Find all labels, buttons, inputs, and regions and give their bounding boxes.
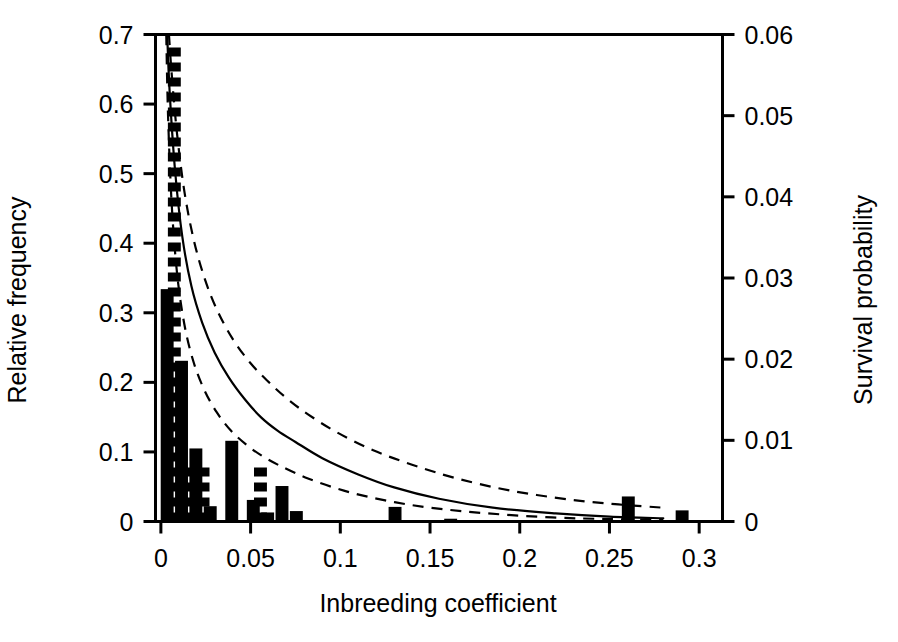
bar-hatched-segment <box>168 318 181 327</box>
bar-hatched-segment <box>168 438 181 447</box>
bar-solid <box>444 519 457 522</box>
x-axis-title: Inbreeding coefficient <box>319 589 556 617</box>
y2-axis-ticks <box>723 35 735 522</box>
bar-hatched-segment <box>168 333 181 342</box>
bar-hatched-segment <box>168 468 181 477</box>
bar-hatched-segment <box>168 303 181 312</box>
bar-hatched-segment <box>197 483 210 492</box>
plot-frame <box>156 35 723 522</box>
bar-hatched-segment <box>168 483 181 492</box>
bar-solid <box>676 510 689 521</box>
bar-hatched-segment <box>168 258 181 267</box>
solid-bar-series <box>161 289 689 521</box>
y2-axis-title: Survival probability <box>849 195 877 405</box>
x-tick-label: 0.1 <box>323 544 358 572</box>
bar-hatched-segment <box>168 453 181 462</box>
y-tick-label: 0.3 <box>99 299 134 327</box>
y2-tick-label: 0.02 <box>745 345 794 373</box>
bar-hatched-segment <box>168 273 181 282</box>
bar-hatched-segment <box>182 468 195 477</box>
y2-tick-label: 0.04 <box>745 183 794 211</box>
bar-hatched-segment <box>254 498 267 507</box>
bar-hatched-segment <box>254 513 267 522</box>
bar-hatched-segment <box>197 498 210 507</box>
bar-hatched-segment <box>168 513 181 522</box>
x-tick-label: 0.2 <box>502 544 537 572</box>
bar-solid <box>389 507 402 522</box>
y-tick-label: 0.5 <box>99 160 134 188</box>
survival-curve-group <box>166 35 663 520</box>
y2-tick-label: 0 <box>745 508 759 536</box>
bar-hatched-segment <box>197 468 210 477</box>
x-tick-label: 0.15 <box>406 544 455 572</box>
y-axis-tick-labels: 00.10.20.30.40.50.60.7 <box>99 21 134 536</box>
x-tick-label: 0.3 <box>682 544 717 572</box>
x-axis-tick-labels: 00.050.10.150.20.250.3 <box>154 544 717 572</box>
y-tick-label: 0 <box>120 508 134 536</box>
x-tick-label: 0 <box>154 544 168 572</box>
bar-hatched-segment <box>182 498 195 507</box>
bar-hatched-segment <box>168 393 181 402</box>
y2-tick-label: 0.06 <box>745 21 794 49</box>
bar-solid <box>290 511 303 521</box>
bar-hatched-segment <box>168 348 181 357</box>
bar-hatched-segment <box>168 423 181 432</box>
y-tick-label: 0.2 <box>99 368 134 396</box>
y2-tick-label: 0.03 <box>745 264 794 292</box>
bar-hatched-segment <box>168 498 181 507</box>
y-tick-label: 0.4 <box>99 229 134 257</box>
x-axis-ticks <box>161 522 699 534</box>
y2-tick-label: 0.01 <box>745 426 794 454</box>
bar-hatched-segment <box>254 468 267 477</box>
bar-hatched-segment <box>182 513 195 522</box>
bar-hatched-segment <box>182 483 195 492</box>
bar-hatched-segment <box>168 123 181 132</box>
y-tick-label: 0.6 <box>99 90 134 118</box>
y-axis-ticks <box>144 35 156 522</box>
inbreeding-survival-chart: 00.050.10.150.20.250.3 00.10.20.30.40.50… <box>0 0 898 642</box>
y-tick-label: 0.1 <box>99 438 134 466</box>
bar-solid <box>276 486 289 521</box>
x-tick-label: 0.05 <box>226 544 275 572</box>
y2-tick-label: 0.05 <box>745 102 794 130</box>
confidence-limit-curve <box>166 35 663 520</box>
survival-curve <box>167 35 663 519</box>
figure-root: 00.050.10.150.20.250.3 00.10.20.30.40.50… <box>0 0 898 642</box>
bar-hatched-segment <box>168 363 181 372</box>
bar-hatched-segment <box>254 483 267 492</box>
x-tick-label: 0.25 <box>585 544 634 572</box>
bar-hatched-segment <box>168 378 181 387</box>
bar-solid <box>225 441 238 522</box>
bar-hatched-segment <box>168 408 181 417</box>
confidence-limit-curve <box>169 35 663 508</box>
y2-axis-tick-labels: 00.010.020.030.040.050.06 <box>745 21 794 536</box>
bar-hatched-segment <box>197 513 210 522</box>
y-axis-title: Relative frequency <box>3 196 31 404</box>
axis-frame <box>156 35 723 522</box>
y-tick-label: 0.7 <box>99 21 134 49</box>
